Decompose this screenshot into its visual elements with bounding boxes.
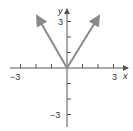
y-axis-label: y [57, 6, 63, 16]
curve-right-branch [67, 16, 99, 68]
x-tick-label-max: 3 [112, 72, 117, 82]
y-tick-label-max: 3 [58, 17, 63, 27]
x-tick-label-min: −3 [10, 72, 20, 82]
y-tick-label-min: −3 [50, 110, 60, 120]
v-shaped-curve [37, 16, 99, 68]
x-axis-label: x [122, 71, 128, 81]
graph-canvas: y x 3 −3 −3 3 [0, 0, 133, 131]
graph-figure: y x 3 −3 −3 3 [0, 0, 133, 131]
